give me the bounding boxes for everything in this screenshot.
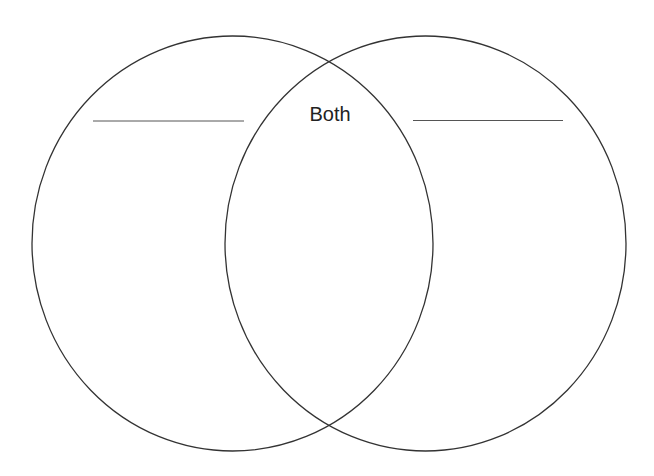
left-circle bbox=[32, 36, 433, 451]
intersection-label: Both bbox=[309, 103, 350, 125]
venn-diagram: Both bbox=[0, 0, 654, 476]
right-circle bbox=[225, 36, 626, 451]
